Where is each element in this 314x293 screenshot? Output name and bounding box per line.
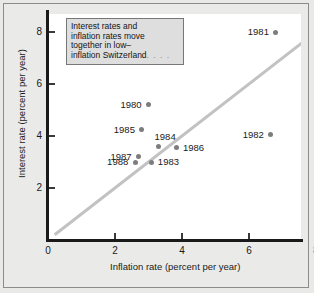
data-point-label: 1984 bbox=[155, 132, 176, 142]
x-axis-tick bbox=[114, 233, 116, 239]
data-point bbox=[273, 30, 278, 35]
y-axis-tick bbox=[49, 135, 55, 137]
y-axis-tick bbox=[49, 187, 55, 189]
x-axis-tick bbox=[181, 233, 183, 239]
caption-line-4-wrap: inflation Switzerland. . . . bbox=[71, 51, 179, 61]
data-point bbox=[149, 160, 154, 165]
x-axis-tick-label: 2 bbox=[108, 246, 122, 256]
x-axis-tick-label: 0 bbox=[41, 246, 55, 256]
y-axis-tick-label: 2 bbox=[28, 183, 42, 193]
x-axis-line bbox=[46, 239, 303, 242]
data-point-label: 1981 bbox=[248, 27, 269, 37]
data-point-label: 1982 bbox=[243, 130, 264, 140]
data-point-label: 1980 bbox=[121, 100, 142, 110]
y-axis-tick bbox=[49, 83, 55, 85]
x-axis-tick-label: 8 bbox=[309, 246, 314, 256]
caption-line-4: inflation Switzerland bbox=[71, 50, 147, 60]
y-axis-tick-label: 4 bbox=[28, 131, 42, 141]
x-axis-tick-label: 4 bbox=[175, 246, 189, 256]
figure-container: 024682468 Interest rate (percent per yea… bbox=[0, 0, 314, 293]
data-point-label: 1983 bbox=[158, 157, 179, 167]
caption-annotation-box: Interest rates and inflation rates move … bbox=[66, 18, 184, 65]
x-axis-title: Inflation rate (percent per year) bbox=[110, 261, 240, 272]
y-axis-title: Interest rate (percent per year) bbox=[16, 39, 27, 189]
data-point bbox=[133, 160, 138, 165]
caption-ellipsis: . . . . bbox=[147, 50, 171, 60]
y-axis-tick-label: 6 bbox=[28, 79, 42, 89]
y-axis-tick bbox=[49, 31, 55, 33]
data-point-label: 1985 bbox=[114, 125, 135, 135]
data-point-label: 1986 bbox=[183, 143, 204, 153]
x-axis-tick bbox=[248, 233, 250, 239]
data-point-label: 1988 bbox=[107, 157, 128, 167]
data-point bbox=[156, 144, 161, 149]
y-axis-tick-label: 8 bbox=[28, 27, 42, 37]
x-axis-tick-label: 6 bbox=[242, 246, 256, 256]
y-axis-line bbox=[46, 10, 49, 242]
